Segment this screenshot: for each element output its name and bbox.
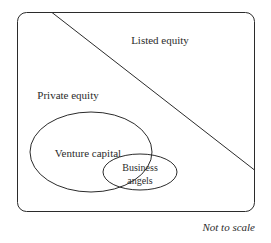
diagram-canvas: Listed equity Private equity Venture cap…: [0, 0, 271, 243]
business-angels-label-line2: angels: [127, 175, 153, 186]
venn-diagram: Listed equity Private equity Venture cap…: [0, 0, 271, 243]
business-angels-label-line1: Business: [122, 162, 158, 173]
venture-capital-label: Venture capital: [55, 147, 121, 159]
private-equity-label: Private equity: [37, 89, 99, 101]
not-to-scale-note: Not to scale: [201, 221, 255, 233]
listed-equity-label: Listed equity: [131, 34, 189, 46]
